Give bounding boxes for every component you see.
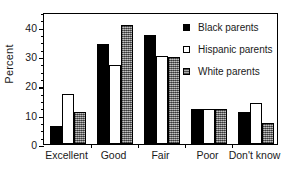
y-axis-minor-tick <box>41 124 44 125</box>
x-axis-tick <box>91 144 92 148</box>
bar <box>168 57 180 144</box>
y-axis-minor-tick <box>41 139 44 140</box>
bar <box>144 35 156 144</box>
x-axis-tick <box>138 144 139 148</box>
y-axis-minor-tick <box>41 36 44 37</box>
y-axis-minor-tick <box>41 95 44 96</box>
y-axis-title: Percent <box>3 34 15 94</box>
bar <box>50 126 62 144</box>
x-axis-tick <box>185 144 186 148</box>
x-axis-tick <box>232 144 233 148</box>
y-axis-minor-tick <box>41 43 44 44</box>
y-axis-tick-label: 40 <box>17 22 37 34</box>
bar <box>109 65 121 144</box>
legend-item: Black parents <box>183 18 277 36</box>
bar <box>156 56 168 144</box>
bar <box>74 112 86 144</box>
y-axis-minor-tick <box>41 131 44 132</box>
y-axis-minor-tick <box>41 21 44 22</box>
bar <box>215 109 227 144</box>
bar <box>250 103 262 144</box>
x-axis-tick-label: Fair <box>151 149 169 161</box>
bar <box>97 44 109 144</box>
y-axis-tick-label: 20 <box>17 80 37 92</box>
y-axis-minor-tick <box>41 109 44 110</box>
legend-item-label: Black parents <box>198 22 259 33</box>
y-axis-tick-label: 0 <box>17 139 37 151</box>
x-axis-tick-label: Poor <box>196 149 218 161</box>
bar <box>262 123 274 144</box>
y-axis-minor-tick <box>41 102 44 103</box>
bar-chart: Percent 010203040 ExcellentGoodFairPoorD… <box>0 0 292 176</box>
y-axis-tick-label: 30 <box>17 51 37 63</box>
hollow-white-swatch <box>183 46 190 53</box>
x-axis-tick-label: Excellent <box>45 149 88 161</box>
x-axis-tick-label: Good <box>101 149 127 161</box>
bar <box>121 25 133 144</box>
bar-group <box>44 14 91 144</box>
y-axis-minor-tick <box>41 65 44 66</box>
y-axis-major-tick <box>39 117 44 118</box>
y-axis-minor-tick <box>41 80 44 81</box>
y-axis-major-tick <box>39 58 44 59</box>
bar <box>203 109 215 144</box>
y-axis-minor-tick <box>41 14 44 15</box>
legend-item-label: White parents <box>198 66 260 77</box>
legend-item: White parents <box>183 62 277 80</box>
bar <box>191 109 203 144</box>
y-axis-tick-label: 10 <box>17 110 37 122</box>
legend-item: Hispanic parents <box>183 40 277 58</box>
x-axis-tick-label: Don't know <box>229 149 281 161</box>
bar-group <box>138 14 185 144</box>
y-axis-minor-tick <box>41 51 44 52</box>
chart-legend: Black parentsHispanic parentsWhite paren… <box>183 18 277 84</box>
y-axis-major-tick <box>39 87 44 88</box>
bar-group <box>91 14 138 144</box>
y-axis-major-tick <box>39 29 44 30</box>
bar <box>238 112 250 144</box>
y-axis-minor-tick <box>41 73 44 74</box>
y-axis-major-tick <box>39 146 44 147</box>
bar <box>62 94 74 144</box>
y-axis-tick-labels: 010203040 <box>16 0 37 176</box>
legend-item-label: Hispanic parents <box>198 44 272 55</box>
solid-black-swatch <box>183 24 190 31</box>
x-axis-tick-labels: ExcellentGoodFairPoorDon't know <box>43 149 278 167</box>
gray-stippled-swatch <box>183 68 190 75</box>
